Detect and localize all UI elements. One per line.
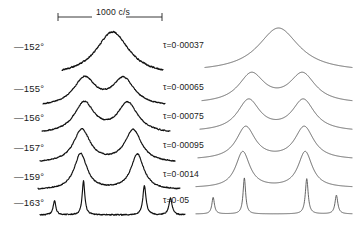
- calculated-curve-4: [198, 126, 352, 158]
- temp-label-152: —152°: [14, 42, 44, 52]
- tau-label-3: τ=0·00075: [163, 112, 204, 121]
- tau-label-1: τ=0·00037: [163, 41, 204, 50]
- calculated-curve-1: [205, 28, 352, 67]
- temp-label-156: —156°: [14, 113, 44, 123]
- temp-label-159: —159°: [14, 172, 44, 182]
- nmr-lineshape-figure: 1000 c/s —152° —155° —156° —157° —159° —…: [0, 0, 358, 227]
- tau-label-4: τ=0·00095: [163, 141, 204, 150]
- calculated-curve-5: [196, 151, 352, 186]
- tau-label-2: τ=0·00065: [163, 83, 204, 92]
- calculated-curve-2: [202, 72, 352, 100]
- tau-label-6: τ=0·05: [163, 196, 189, 205]
- observed-trace-155: [43, 76, 165, 104]
- tau-label-5: τ=0·0014: [163, 170, 199, 179]
- temp-label-155: —155°: [14, 84, 44, 94]
- observed-trace-152: [62, 31, 163, 70]
- observed-trace-156: [42, 101, 170, 131]
- calculated-curve-3: [200, 99, 352, 129]
- temp-label-157: —157°: [14, 143, 44, 153]
- temp-label-163: —163°: [14, 198, 44, 208]
- observed-trace-157: [40, 129, 175, 162]
